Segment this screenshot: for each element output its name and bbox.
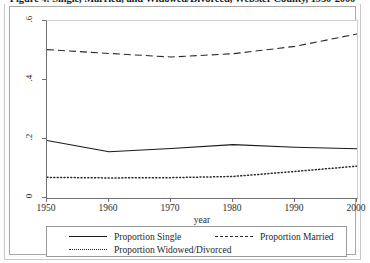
x-tick-mark <box>46 198 47 202</box>
series-line <box>47 166 357 178</box>
document-border-left <box>4 4 5 260</box>
legend-key-dashed <box>215 236 253 239</box>
x-tick-mark <box>232 198 233 202</box>
legend-label: Proportion Single <box>114 231 181 243</box>
legend-label: Proportion Married <box>260 231 334 243</box>
x-tick-label: 1970 <box>150 203 190 213</box>
document-border-bottom <box>4 259 361 260</box>
legend: Proportion SingleProportion MarriedPropo… <box>46 226 347 257</box>
x-tick-label: 2000 <box>336 203 370 213</box>
plot-region <box>46 20 358 199</box>
x-axis-title: year <box>46 215 358 225</box>
x-tick-mark <box>108 198 109 202</box>
y-tick-label: .4 <box>24 67 34 89</box>
series-lines <box>47 21 357 198</box>
legend-key-solid <box>69 236 107 239</box>
x-tick-label: 1980 <box>212 203 252 213</box>
series-line <box>47 140 357 151</box>
graph-frame: 0.2.4.6 195019601970198019902000 year Pr… <box>9 6 356 255</box>
x-tick-mark <box>356 198 357 202</box>
figure-caption: Figure 4: Single, Married, and Widowed/D… <box>0 0 365 5</box>
x-tick-label: 1950 <box>26 203 66 213</box>
x-tick-label: 1960 <box>88 203 128 213</box>
legend-key-dotted <box>69 249 107 252</box>
y-tick-label: .2 <box>24 126 34 148</box>
series-line <box>47 34 357 57</box>
x-tick-label: 1990 <box>274 203 314 213</box>
y-tick-label: .6 <box>24 8 34 30</box>
legend-label: Proportion Widowed/Divorced <box>114 244 231 256</box>
x-tick-mark <box>170 198 171 202</box>
document-border-right <box>360 4 361 260</box>
x-tick-mark <box>294 198 295 202</box>
